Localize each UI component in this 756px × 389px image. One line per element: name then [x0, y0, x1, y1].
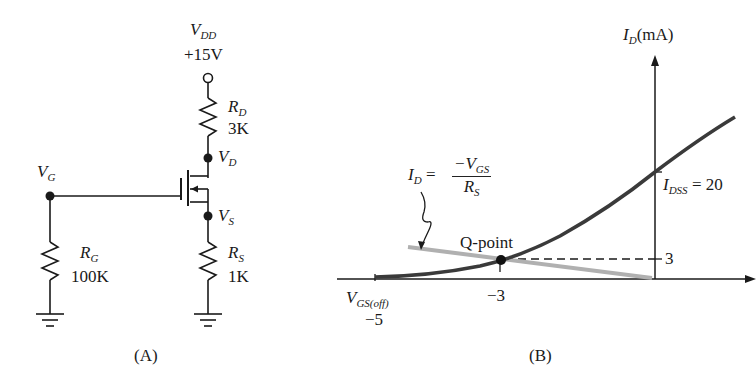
vdd-label: VDD: [190, 21, 216, 41]
y-axis-arrow-icon: [651, 55, 659, 66]
level-3-label: 3: [665, 250, 674, 267]
graph-axes: [337, 62, 750, 279]
x-axis-arrow-icon: [745, 275, 756, 283]
q-point-label: Q-point: [460, 234, 513, 251]
mosfet-arrow-icon: [191, 186, 198, 193]
vd-label: VD: [218, 148, 236, 168]
y-axis-label: ID(mA): [623, 26, 673, 46]
caption-a: (A): [134, 347, 158, 364]
rs-label: RS: [228, 244, 244, 264]
rd-value: 3K: [228, 120, 249, 137]
rd-label: RD: [228, 98, 246, 118]
rg-label: RG: [80, 244, 98, 264]
idss-label: IDSS = 20: [663, 176, 723, 196]
vdd-terminal: [204, 74, 213, 83]
q-point-dot: [496, 255, 506, 265]
transfer-curve: [375, 117, 735, 277]
circuit-wires: [36, 74, 222, 327]
vg-node: [46, 192, 55, 201]
rs-value: 1K: [228, 268, 249, 285]
vg-label: VG: [37, 163, 55, 183]
rs-resistor: [200, 242, 216, 280]
diagram-canvas: [0, 0, 756, 389]
vdd-value: +15V: [184, 46, 223, 63]
squiggle-arrow-icon: [421, 192, 431, 246]
vd-node: [204, 154, 213, 163]
load-line-eq-fraction: −VGS RS: [452, 154, 491, 198]
vgs-off-value: −5: [365, 311, 383, 328]
rg-resistor: [42, 242, 58, 280]
vgs-off-label: VGS(off): [346, 289, 389, 309]
tick-minus3-label: −3: [487, 287, 505, 304]
rd-resistor: [200, 98, 216, 136]
rg-value: 100K: [71, 268, 109, 285]
caption-b: (B): [529, 347, 552, 364]
vs-node: [204, 212, 213, 221]
vs-label: VS: [218, 207, 234, 227]
load-line-eq-lhs: ID =: [408, 166, 435, 186]
